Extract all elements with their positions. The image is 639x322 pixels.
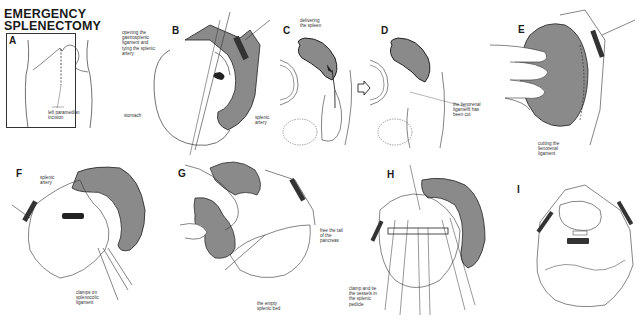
panel-a: A left paramedian incision — [0, 0, 110, 140]
panel-h: H clamp and tie the vessels in the splen… — [340, 150, 510, 322]
right-arrow-icon — [357, 80, 371, 96]
panel-f: F splenic artery clamps on splenocolic l… — [0, 150, 170, 322]
panel-f-illustration — [0, 150, 170, 322]
panel-b-illustration — [110, 0, 290, 160]
panel-d: D the lienorenal ligament has been cut — [370, 0, 490, 160]
panel-h-illustration — [340, 150, 510, 322]
panel-d-illustration — [370, 0, 490, 160]
panel-g-illustration — [165, 150, 345, 322]
panel-e: E cutting the lienorenal ligament — [490, 0, 639, 160]
label-left-paramedian-incision: left paramedian incision — [48, 110, 80, 120]
panel-i-illustration — [505, 150, 639, 322]
panel-g: G free the tail of the pancreas the empt… — [165, 150, 345, 322]
panel-e-illustration — [490, 0, 639, 160]
panel-b: B opening the gastrosplenic ligament and… — [110, 0, 290, 160]
panel-i: I — [505, 150, 639, 322]
